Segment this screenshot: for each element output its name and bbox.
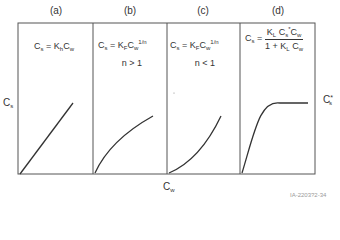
equation-b: Cs = KFCw1/n: [98, 39, 147, 51]
figure-code: IA-2203?2-34: [290, 192, 326, 198]
condition-c: n < 1: [195, 58, 215, 68]
equation-d-numerator: KL Cs*Cw: [265, 26, 304, 40]
x-axis-label: Cw: [163, 181, 175, 193]
equation-d: Cs = KL Cs*Cw 1 + KL Cw: [245, 26, 303, 52]
curve-freundlich-n-gt-1: [95, 116, 153, 173]
asymptote-label: C*s: [323, 94, 332, 106]
equation-c: Cs = KFCw1/n: [170, 39, 219, 51]
equation-a: Cs = KhCw: [34, 41, 74, 52]
condition-b: n > 1: [122, 58, 142, 68]
curve-freundlich-n-lt-1: [169, 116, 221, 173]
curve-langmuir: [242, 103, 308, 173]
equation-d-denominator: 1 + KL Cw: [265, 40, 304, 52]
y-axis-label: Cs: [3, 97, 13, 109]
curve-linear: [20, 103, 73, 174]
